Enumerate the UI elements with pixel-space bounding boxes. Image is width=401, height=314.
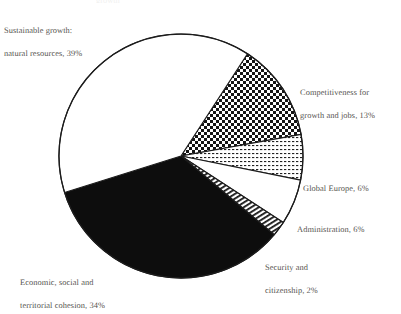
- slice-label-economic-cohesion-line1: Economic, social and: [20, 277, 160, 288]
- slice-label-sustainable-growth: Sustainable growth: natural resources, 3…: [4, 14, 136, 70]
- slice-label-administration-line1: Administration, 6%: [297, 224, 401, 235]
- slice-label-global-europe-line1: Global Europe, 6%: [303, 183, 401, 194]
- slice-label-sustainable-growth-line1: Sustainable growth:: [4, 25, 136, 36]
- slice-label-global-europe: Global Europe, 6%: [303, 172, 401, 206]
- slice-label-economic-cohesion-line2: territorial cohesion, 34%: [20, 300, 160, 311]
- slice-label-economic-cohesion: Economic, social and territorial cohesio…: [20, 266, 160, 314]
- slice-label-competitiveness-line2: growth and jobs, 13%: [300, 110, 401, 121]
- slice-label-competitiveness-line1: Competitiveness for: [300, 87, 401, 98]
- slice-label-security-citizenship: Security and citizenship, 2%: [265, 251, 359, 307]
- slice-label-sustainable-growth-line2: natural resources, 39%: [4, 48, 136, 59]
- slice-label-administration: Administration, 6%: [297, 213, 401, 247]
- slice-label-competitiveness: Competitiveness for growth and jobs, 13%: [300, 76, 401, 132]
- slice-label-security-citizenship-line2: citizenship, 2%: [265, 285, 359, 296]
- slice-label-security-citizenship-line1: Security and: [265, 262, 359, 273]
